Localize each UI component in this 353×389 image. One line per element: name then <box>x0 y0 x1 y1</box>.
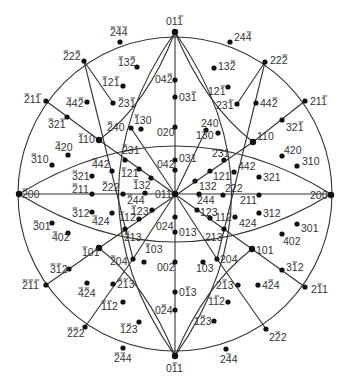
pole-dot <box>231 169 236 174</box>
svg-text:402: 402 <box>283 235 301 247</box>
pole-label: 301 <box>33 220 51 232</box>
pole-label: 103 <box>196 262 214 274</box>
pole-label: 211 <box>24 93 41 105</box>
pole-dot <box>43 282 48 287</box>
pole-label: 310 <box>302 155 320 167</box>
svg-text:011: 011 <box>155 188 172 200</box>
pole-label: 321 <box>72 170 90 182</box>
pole-label: 240 <box>107 121 125 133</box>
svg-text:101: 101 <box>82 246 100 258</box>
pole-dot <box>194 207 199 212</box>
pole-label: 213 <box>216 279 234 291</box>
svg-text:024: 024 <box>156 220 174 232</box>
pole-label: 222 <box>67 327 85 339</box>
pole-label: 222 <box>270 54 288 66</box>
pole-label: 402 <box>52 231 70 243</box>
svg-text:110: 110 <box>257 130 274 142</box>
pole-dot <box>227 39 232 44</box>
svg-text:420: 420 <box>55 141 73 153</box>
svg-text:301: 301 <box>33 220 51 232</box>
svg-text:211: 211 <box>310 95 327 107</box>
pole-dot <box>110 281 115 286</box>
pole-dot <box>120 345 125 350</box>
projection-canvas: 0112442442222221321320421211210312112114… <box>0 0 353 389</box>
pole-label: 121 <box>121 167 139 179</box>
pole-label: 301 <box>301 222 319 234</box>
svg-text:424: 424 <box>78 287 96 299</box>
svg-text:211: 211 <box>240 194 257 206</box>
svg-text:321: 321 <box>48 118 66 130</box>
pole-dot <box>263 326 268 331</box>
pole-dot <box>250 139 256 145</box>
pole-label: 110 <box>78 133 95 145</box>
pole-label: 222 <box>269 331 287 343</box>
svg-text:420: 420 <box>284 144 302 156</box>
pole-dot <box>172 77 177 82</box>
svg-text:222: 222 <box>102 181 120 193</box>
pole-label: 424 <box>239 217 257 229</box>
pole-label: 424 <box>262 279 280 291</box>
svg-text:110: 110 <box>78 133 95 145</box>
pole-label: 442 <box>92 158 110 170</box>
svg-text:222: 222 <box>67 327 85 339</box>
pole-label: 121 <box>102 76 120 88</box>
pole-dot <box>122 157 127 162</box>
svg-text:310: 310 <box>31 153 49 165</box>
svg-text:240: 240 <box>107 121 125 133</box>
pole-dot <box>172 289 177 294</box>
svg-text:211: 211 <box>311 283 328 295</box>
pole-label: 321 <box>286 121 304 133</box>
svg-text:112: 112 <box>208 295 225 307</box>
svg-text:213: 213 <box>205 231 223 243</box>
pole-label: 420 <box>284 144 302 156</box>
pole-dot <box>302 284 307 289</box>
svg-text:222: 222 <box>225 182 243 194</box>
svg-text:132: 132 <box>218 60 236 72</box>
svg-text:244: 244 <box>220 353 238 365</box>
svg-text:222: 222 <box>270 54 288 66</box>
svg-text:011: 011 <box>166 362 183 374</box>
pole-dot <box>256 210 261 215</box>
pole-dot <box>172 353 178 359</box>
pole-label: 442 <box>260 97 278 109</box>
svg-text:011: 011 <box>166 15 183 27</box>
pole-label: 011 <box>155 188 172 200</box>
svg-text:312: 312 <box>286 261 304 273</box>
pole-dot <box>207 168 212 173</box>
svg-text:312: 312 <box>50 263 68 275</box>
pole-label: 204 <box>110 255 128 267</box>
pole-dot <box>192 178 197 183</box>
pole-label: 011 <box>166 15 183 27</box>
pole-label: 231 <box>118 97 136 109</box>
pole-dot <box>234 101 239 106</box>
svg-text:002: 002 <box>157 261 175 273</box>
pole-label: 112 <box>215 211 232 223</box>
svg-text:442: 442 <box>238 160 256 172</box>
svg-text:101: 101 <box>256 244 274 256</box>
pole-dot <box>141 259 146 264</box>
pole-dot <box>172 307 177 312</box>
pole-label: 132 <box>199 180 217 192</box>
pole-label: 123 <box>194 315 212 327</box>
svg-text:211: 211 <box>24 93 41 105</box>
pole-label: 002 <box>157 261 175 273</box>
pole-label: 132 <box>218 60 236 72</box>
svg-text:132: 132 <box>133 179 151 191</box>
pole-label: 031 <box>179 152 197 164</box>
svg-text:211: 211 <box>72 183 89 195</box>
pole-dot <box>253 100 258 105</box>
pole-label: 222 <box>63 50 81 62</box>
pole-label: 013 <box>179 286 197 298</box>
pole-dot <box>294 163 299 168</box>
pole-dot <box>215 130 220 135</box>
pole-label: 110 <box>257 130 274 142</box>
pole-label: 121 <box>208 85 226 97</box>
svg-text:132: 132 <box>199 180 217 192</box>
svg-text:213: 213 <box>124 231 142 243</box>
svg-text:103: 103 <box>145 243 163 255</box>
pole-label: 244 <box>220 353 238 365</box>
pole-dot <box>89 191 94 196</box>
svg-text:121: 121 <box>121 167 139 179</box>
line-2m22-to-101 <box>217 259 266 329</box>
pole-label: 244 <box>197 194 215 206</box>
